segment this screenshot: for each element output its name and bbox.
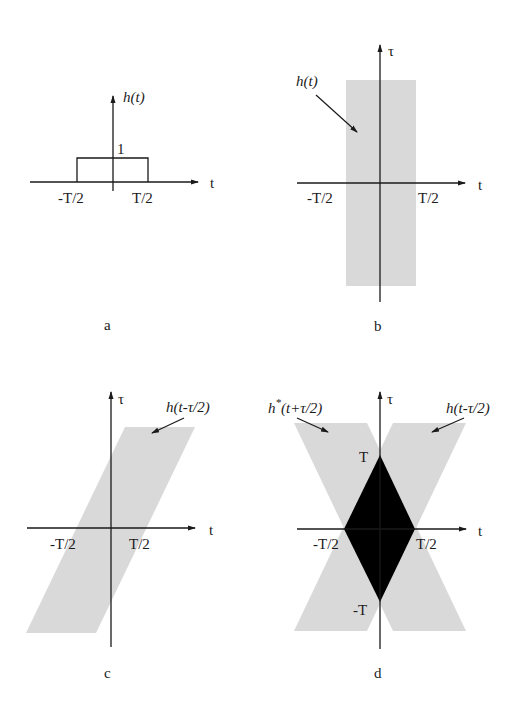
caption-b: b	[374, 318, 382, 334]
h-of-t-label: h(t)	[123, 89, 145, 106]
tau-axis-label: τ	[388, 43, 394, 59]
neg-half-T-label: -T/2	[50, 536, 76, 552]
pos-half-T-label: T/2	[418, 190, 439, 206]
tau-T-label: T	[359, 449, 368, 465]
panel-c: τ h(t-τ/2) t -T/2 T/2 c	[26, 391, 214, 681]
panel-d: τ h*(t+τ/2) h(t-τ/2) T -T t -T/2 T/2 d	[268, 391, 490, 681]
t-axis-label: t	[210, 175, 215, 191]
neg-half-T-label: -T/2	[313, 536, 339, 552]
panel-b: h(t) τ t -T/2 T/2 b	[296, 43, 483, 334]
neg-half-T-label: -T/2	[307, 190, 333, 206]
h-conj-label: h*(t+τ/2)	[268, 396, 322, 417]
pos-half-T-label: T/2	[129, 536, 150, 552]
figure-canvas: h(t) 1 t -T/2 T/2 a h(t) τ t -T/2 T/2 b …	[0, 0, 526, 709]
h-shift-label: h(t-τ/2)	[166, 399, 210, 416]
caption-a: a	[104, 317, 111, 333]
pos-half-T-label: T/2	[416, 536, 437, 552]
t-axis-label: t	[209, 522, 214, 538]
neg-half-T-label: -T/2	[58, 190, 84, 206]
tau-axis-label: τ	[387, 391, 393, 407]
caption-c: c	[104, 665, 111, 681]
h-of-t-label: h(t)	[296, 73, 318, 90]
t-axis-label: t	[478, 523, 483, 539]
h-shift-label: h(t-τ/2)	[446, 400, 490, 417]
pos-half-T-label: T/2	[132, 190, 153, 206]
tau-neg-T-label: -T	[353, 602, 367, 618]
panel-a: h(t) 1 t -T/2 T/2 a	[30, 89, 215, 333]
t-axis-label: t	[478, 177, 483, 193]
caption-d: d	[374, 665, 382, 681]
tau-axis-label: τ	[118, 391, 124, 407]
height-one-label: 1	[117, 141, 125, 157]
